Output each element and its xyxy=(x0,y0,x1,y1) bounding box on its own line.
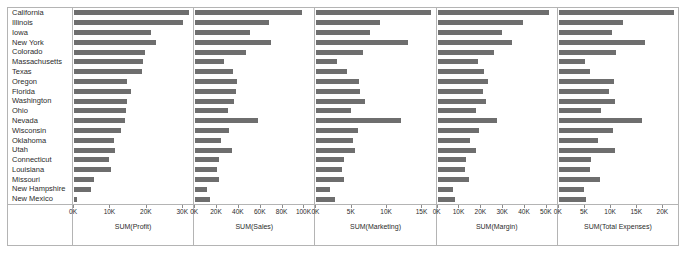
bar-row[interactable] xyxy=(558,96,678,106)
bar[interactable] xyxy=(559,10,675,15)
bar[interactable] xyxy=(438,79,488,84)
bar[interactable] xyxy=(316,30,369,35)
bar[interactable] xyxy=(195,128,229,133)
bar-row[interactable] xyxy=(194,175,314,185)
bar-row[interactable] xyxy=(558,145,678,155)
bar[interactable] xyxy=(438,157,466,162)
bar[interactable] xyxy=(559,148,615,153)
bar-row[interactable] xyxy=(73,67,193,77)
bar-row[interactable] xyxy=(194,194,314,204)
bar[interactable] xyxy=(438,118,497,123)
bar[interactable] xyxy=(438,10,550,15)
bar-row[interactable] xyxy=(194,47,314,57)
bar-row[interactable] xyxy=(315,145,435,155)
bar[interactable] xyxy=(438,20,524,25)
bar[interactable] xyxy=(74,177,94,182)
bar[interactable] xyxy=(195,138,220,143)
bar-row[interactable] xyxy=(73,8,193,18)
bar-row[interactable] xyxy=(558,18,678,28)
bar-row[interactable] xyxy=(73,86,193,96)
bar-row[interactable] xyxy=(194,67,314,77)
bar[interactable] xyxy=(74,40,156,45)
bar-row[interactable] xyxy=(437,57,557,67)
bar[interactable] xyxy=(74,20,183,25)
bar-row[interactable] xyxy=(194,86,314,96)
bar[interactable] xyxy=(559,69,590,74)
bar-row[interactable] xyxy=(315,28,435,38)
bar[interactable] xyxy=(195,59,224,64)
bar-row[interactable] xyxy=(558,175,678,185)
bar-row[interactable] xyxy=(558,8,678,18)
bar[interactable] xyxy=(316,40,407,45)
bar-row[interactable] xyxy=(194,145,314,155)
bar[interactable] xyxy=(559,59,585,64)
bar-row[interactable] xyxy=(315,184,435,194)
bar[interactable] xyxy=(559,20,623,25)
bar-row[interactable] xyxy=(437,18,557,28)
bar[interactable] xyxy=(438,30,502,35)
bar[interactable] xyxy=(559,108,601,113)
bar-row[interactable] xyxy=(315,77,435,87)
bar-row[interactable] xyxy=(73,106,193,116)
bar[interactable] xyxy=(195,177,218,182)
bar[interactable] xyxy=(74,108,126,113)
bar-row[interactable] xyxy=(315,194,435,204)
bar-row[interactable] xyxy=(558,135,678,145)
bar-row[interactable] xyxy=(437,194,557,204)
bar-row[interactable] xyxy=(73,184,193,194)
bar-row[interactable] xyxy=(194,155,314,165)
bar[interactable] xyxy=(438,108,477,113)
bar[interactable] xyxy=(559,40,646,45)
bar-row[interactable] xyxy=(558,116,678,126)
bar-row[interactable] xyxy=(558,106,678,116)
bar[interactable] xyxy=(74,30,151,35)
bar-row[interactable] xyxy=(558,194,678,204)
bar-row[interactable] xyxy=(73,135,193,145)
bar[interactable] xyxy=(438,40,513,45)
bar-row[interactable] xyxy=(194,165,314,175)
bar[interactable] xyxy=(195,187,206,192)
bar-row[interactable] xyxy=(73,175,193,185)
bar-row[interactable] xyxy=(315,175,435,185)
bar[interactable] xyxy=(316,69,346,74)
bar-row[interactable] xyxy=(73,28,193,38)
bar-row[interactable] xyxy=(73,18,193,28)
bar[interactable] xyxy=(74,197,77,202)
bar[interactable] xyxy=(559,138,598,143)
bar[interactable] xyxy=(316,128,358,133)
bar[interactable] xyxy=(195,118,257,123)
bar[interactable] xyxy=(195,10,302,15)
bar[interactable] xyxy=(316,59,336,64)
bar-row[interactable] xyxy=(73,77,193,87)
bar[interactable] xyxy=(438,148,477,153)
bar[interactable] xyxy=(316,177,344,182)
bar[interactable] xyxy=(74,128,121,133)
bar[interactable] xyxy=(559,187,584,192)
bar[interactable] xyxy=(195,50,245,55)
bar[interactable] xyxy=(559,118,642,123)
bar[interactable] xyxy=(74,50,145,55)
bar-row[interactable] xyxy=(315,126,435,136)
bar[interactable] xyxy=(74,138,114,143)
bar-row[interactable] xyxy=(315,165,435,175)
bar[interactable] xyxy=(316,157,343,162)
bar[interactable] xyxy=(559,197,586,202)
bar-row[interactable] xyxy=(437,184,557,194)
bar-row[interactable] xyxy=(437,175,557,185)
bar[interactable] xyxy=(195,79,237,84)
bar-row[interactable] xyxy=(73,145,193,155)
bar[interactable] xyxy=(316,99,365,104)
bar-row[interactable] xyxy=(437,8,557,18)
bar-row[interactable] xyxy=(73,194,193,204)
bar[interactable] xyxy=(74,148,115,153)
bar[interactable] xyxy=(74,10,189,15)
bar-row[interactable] xyxy=(73,126,193,136)
bar[interactable] xyxy=(74,79,127,84)
bar-row[interactable] xyxy=(315,37,435,47)
bar-row[interactable] xyxy=(437,77,557,87)
bar-row[interactable] xyxy=(315,106,435,116)
bar[interactable] xyxy=(195,197,210,202)
bar-row[interactable] xyxy=(194,106,314,116)
bar[interactable] xyxy=(195,108,228,113)
bar[interactable] xyxy=(195,30,250,35)
